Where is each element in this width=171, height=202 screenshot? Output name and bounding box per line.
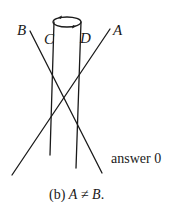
line-A: [12, 29, 110, 175]
label-A: A: [112, 22, 123, 38]
caption-suffix: .: [101, 187, 105, 202]
cone-rotation-diagram: B C D A answer 0 (b) A ≠ B.: [0, 0, 171, 202]
label-B: B: [17, 22, 26, 38]
line-B: [30, 31, 102, 173]
caption-A: A: [68, 187, 78, 202]
caption-neq: ≠: [77, 187, 92, 202]
answer-annotation: answer 0: [111, 151, 161, 166]
rotation-circle-icon: [53, 16, 81, 29]
figure-caption: (b) A ≠ B.: [49, 187, 104, 202]
label-D: D: [79, 30, 91, 46]
caption-prefix: (b): [49, 187, 69, 202]
label-C: C: [44, 31, 55, 47]
